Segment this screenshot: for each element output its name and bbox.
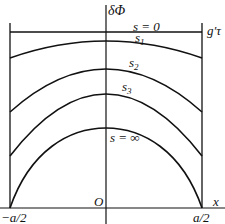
x-axis-label: x bbox=[213, 195, 219, 208]
curve-label-subscript: 1 bbox=[140, 37, 145, 47]
right-tick-label: a/2 bbox=[193, 211, 210, 224]
curve-label-s2: s2 bbox=[129, 56, 139, 72]
curve-label-subscript: 2 bbox=[134, 62, 139, 72]
g-tau-label: g′τ bbox=[207, 24, 221, 37]
curve-label-text: s = ∞ bbox=[110, 130, 140, 145]
curve-label-s1: s1 bbox=[135, 31, 145, 47]
curve-label-subscript: 3 bbox=[127, 86, 132, 96]
y-axis-label: δΦ bbox=[108, 4, 125, 18]
curve-label-sinf: s = ∞ bbox=[110, 131, 140, 144]
curve-label-s3: s3 bbox=[122, 80, 132, 96]
left-tick-label: −a/2 bbox=[1, 211, 26, 224]
diagram-canvas bbox=[0, 0, 225, 224]
origin-label: O bbox=[94, 195, 103, 208]
